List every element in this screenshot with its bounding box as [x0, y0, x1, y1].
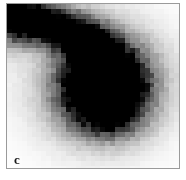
panel-label: c	[14, 153, 20, 166]
intensity-map-frame	[6, 3, 180, 169]
intensity-map-canvas	[7, 4, 179, 168]
figure-panel: c	[0, 0, 186, 180]
